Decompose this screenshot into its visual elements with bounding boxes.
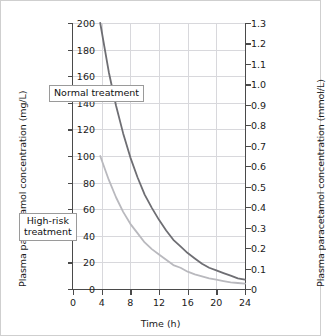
x-axis-title: Time (h): [1, 318, 320, 329]
plot-area: 020406080100120140160180200 00.10.20.30.…: [73, 23, 245, 289]
y-axis-right-tick-label: 0.8: [251, 120, 266, 131]
y-axis-title-right: Plasma paracetamol concentration (mmol/L…: [315, 79, 326, 287]
y-axis-right-tick-label: 1.2: [251, 38, 266, 49]
curve-high-risk-treatment: [100, 156, 245, 284]
x-axis-tick: [159, 290, 160, 295]
x-axis-tick: [245, 290, 246, 295]
y-axis-right-tick-label: 0.4: [251, 202, 266, 213]
data-curves: [73, 23, 245, 289]
x-axis-tick-label: 0: [70, 297, 76, 308]
x-axis-labels: 04812162024: [73, 297, 245, 313]
x-axis-tick: [216, 290, 217, 295]
y-axis-right-tick-label: 1.0: [251, 79, 266, 90]
annotation-high-risk-treatment: High-risk treatment: [19, 213, 77, 241]
x-axis-tick-label: 16: [182, 297, 194, 308]
x-axis-tick: [130, 290, 131, 295]
x-axis-tick: [188, 290, 189, 295]
y-axis-right-tick-label: 0: [251, 284, 257, 295]
x-axis-tick: [102, 290, 103, 295]
x-axis-tick-label: 20: [210, 297, 222, 308]
y-axis-right-tick-label: 0.3: [251, 222, 266, 233]
y-axis-right-tick-label: 0.6: [251, 161, 266, 172]
y-axis-right-tick-label: 0.7: [251, 140, 266, 151]
x-axis-tick-label: 8: [127, 297, 133, 308]
x-axis-tick: [73, 290, 74, 295]
annotation-normal-treatment: Normal treatment: [49, 85, 144, 102]
y-axis-title-left: Plasma paracetamol concentration (mg/L): [17, 91, 28, 287]
y-axis-right-tick-label: 0.2: [251, 243, 266, 254]
y-axis-right-tick-label: 0.9: [251, 99, 266, 110]
y-axis-right-tick-label: 0.1: [251, 263, 266, 274]
curve-normal-treatment: [100, 23, 245, 280]
y-axis-right-tick-label: 1.1: [251, 58, 266, 69]
annotation-high-risk-line2: treatment: [24, 227, 72, 238]
y-axis-right-tick-label: 1.3: [251, 18, 266, 29]
x-axis-tick-label: 12: [153, 297, 165, 308]
x-axis-tick-label: 4: [99, 297, 105, 308]
y-axis-right-tick-label: 0.5: [251, 181, 266, 192]
x-axis-tick-label: 24: [239, 297, 251, 308]
y-axis-right-labels: 00.10.20.30.40.50.60.70.80.91.01.11.21.3: [251, 23, 277, 289]
